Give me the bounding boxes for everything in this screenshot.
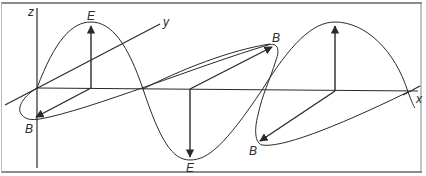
b-vector-1 — [36, 88, 91, 117]
b-label-3: B — [249, 144, 257, 158]
e-label-2: E — [186, 161, 195, 175]
electric-vectors — [91, 26, 335, 157]
x-axis — [37, 88, 418, 91]
b-label-1: B — [25, 122, 33, 136]
em-wave-diagram: z y x E E B B B — [0, 0, 426, 176]
frame — [1, 3, 422, 172]
z-axis-label: z — [27, 5, 34, 19]
magnetic-vectors — [36, 47, 335, 141]
e-label-1: E — [87, 9, 96, 23]
axes — [5, 8, 420, 168]
y-axis-label: y — [162, 15, 170, 29]
x-axis-label: x — [415, 92, 423, 106]
b-vector-3 — [260, 91, 335, 141]
b-label-2: B — [272, 31, 280, 45]
